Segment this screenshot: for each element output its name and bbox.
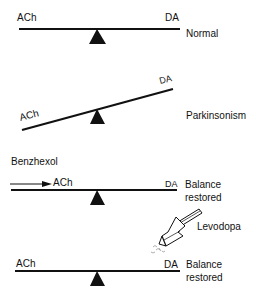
parkinsonism-state-label: Parkinsonism <box>186 110 246 121</box>
benzhexol-arrow-icon <box>42 181 52 187</box>
levodopa-da-label: DA <box>164 259 178 270</box>
normal-state-label: Normal <box>186 28 218 39</box>
levodopa-fulcrum-icon <box>90 271 105 286</box>
levodopa-state-line2: restored <box>186 272 223 283</box>
normal-ach-label: ACh <box>17 12 36 23</box>
seesaw-diagram <box>0 0 256 296</box>
levodopa-drug-label: Levodopa <box>197 221 241 232</box>
levodopa-ach-label: ACh <box>16 258 35 269</box>
benzhexol-fulcrum-icon <box>90 190 105 205</box>
benzhexol-state-line1: Balance <box>185 179 221 190</box>
levodopa-scoop-icon <box>151 209 202 253</box>
benzhexol-drug-label: Benzhexol <box>11 156 58 167</box>
benzhexol-state-line2: restored <box>185 192 222 203</box>
benzhexol-da-label: DA <box>165 179 178 190</box>
normal-fulcrum-icon <box>89 29 106 44</box>
benzhexol-ach-label: ACh <box>53 177 72 188</box>
normal-da-label: DA <box>165 12 179 23</box>
levodopa-state-line1: Balance <box>186 259 222 270</box>
